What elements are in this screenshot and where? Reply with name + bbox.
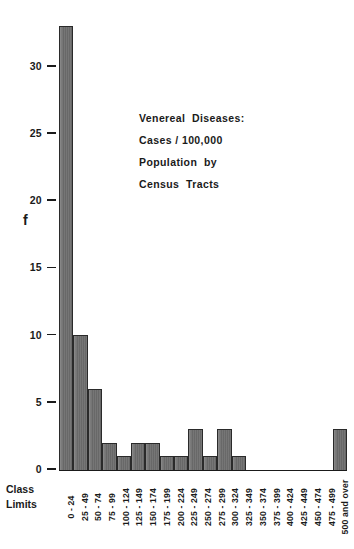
- bar: [232, 456, 246, 469]
- y-tick-label: 15: [30, 261, 42, 273]
- x-axis: 0 - 2425 - 4950 - 7475 - 99100 - 124125 …: [59, 477, 347, 549]
- histogram-figure: 051015202530 f Venereal Diseases:Cases /…: [0, 0, 354, 549]
- x-tick: 75 - 99: [100, 477, 114, 549]
- y-tick-mark: [47, 267, 56, 269]
- x-tick: 200 - 224: [169, 477, 183, 549]
- x-tick: 300 - 324: [224, 477, 238, 549]
- y-tick-10: 10: [30, 328, 60, 342]
- x-tick: 450 - 474: [306, 477, 320, 549]
- y-axis-title: f: [23, 212, 28, 228]
- bar: [217, 429, 231, 469]
- y-tick-5: 5: [36, 395, 60, 409]
- y-tick-mark: [47, 468, 56, 470]
- x-tick: 225 - 249: [182, 477, 196, 549]
- bar: [59, 26, 73, 470]
- x-axis-title-line-1: Class: [6, 483, 34, 495]
- x-axis-title-line-2: Limits: [6, 498, 37, 510]
- y-tick-mark: [47, 334, 56, 336]
- bar: [160, 456, 174, 469]
- x-tick: 275 - 299: [210, 477, 224, 549]
- x-tick: 350 - 374: [251, 477, 265, 549]
- y-tick-20: 20: [30, 193, 60, 207]
- bar: [117, 456, 131, 469]
- y-tick-label: 0: [36, 463, 42, 475]
- x-tick: 475 - 499: [320, 477, 334, 549]
- bar: [174, 456, 188, 469]
- plot-area: [59, 12, 347, 471]
- x-tick: 125 - 149: [128, 477, 142, 549]
- bar: [203, 456, 217, 469]
- x-tick: 50 - 74: [86, 477, 100, 549]
- y-tick-label: 25: [30, 127, 42, 139]
- y-tick-mark: [47, 401, 56, 403]
- x-tick: 325 - 349: [237, 477, 251, 549]
- y-tick-0: 0: [36, 462, 60, 476]
- bar: [145, 443, 159, 470]
- x-tick: 425 - 449: [292, 477, 306, 549]
- y-tick-30: 30: [30, 59, 60, 73]
- x-axis-baseline: [59, 470, 347, 472]
- bar: [102, 443, 116, 470]
- x-tick: 375 - 399: [265, 477, 279, 549]
- x-tick: 25 - 49: [73, 477, 87, 549]
- bar-series: [59, 13, 347, 470]
- x-tick-label: 500 and over: [340, 480, 350, 535]
- bar: [73, 335, 87, 469]
- y-axis: 051015202530: [0, 0, 60, 549]
- y-tick-25: 25: [30, 126, 60, 140]
- bar: [188, 429, 202, 469]
- x-tick: 250 - 274: [196, 477, 210, 549]
- x-tick: 175 - 199: [155, 477, 169, 549]
- y-tick-mark: [47, 199, 56, 201]
- x-tick: 0 - 24: [59, 477, 73, 549]
- bar: [131, 443, 145, 470]
- y-tick-label: 5: [36, 396, 42, 408]
- y-tick-label: 30: [30, 60, 42, 72]
- x-tick: 150 - 174: [141, 477, 155, 549]
- bar: [88, 389, 102, 470]
- bar: [333, 429, 347, 469]
- x-axis-title: Class Limits: [6, 482, 58, 512]
- y-tick-label: 20: [30, 194, 42, 206]
- y-tick-mark: [47, 132, 56, 134]
- x-tick: 100 - 124: [114, 477, 128, 549]
- x-tick: 500 and over: [333, 477, 347, 549]
- y-tick-mark: [47, 65, 56, 67]
- y-tick-label: 10: [30, 329, 42, 341]
- y-tick-15: 15: [30, 260, 60, 274]
- x-tick: 400 - 424: [279, 477, 293, 549]
